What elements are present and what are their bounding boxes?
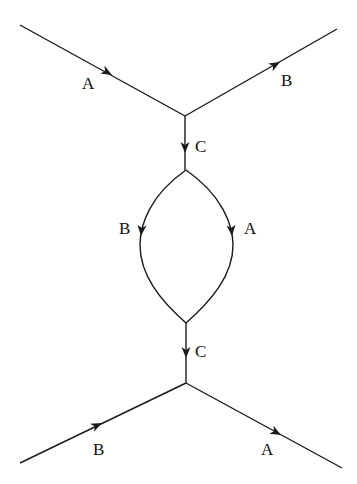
arrow-icon xyxy=(90,419,104,432)
label-top-out: B xyxy=(281,71,292,90)
arrow-icon xyxy=(100,66,114,79)
arrow-icon xyxy=(269,426,283,439)
label-bottom-in: B xyxy=(93,440,104,459)
edge-loop-right-a xyxy=(186,170,233,323)
label-top-in: A xyxy=(82,74,95,93)
label-loop-right: A xyxy=(244,219,257,238)
edge-top-b xyxy=(185,29,337,116)
arrow-icon xyxy=(137,225,147,237)
label-top-mid: C xyxy=(195,137,206,156)
label-bottom-out: A xyxy=(261,440,274,459)
label-loop-left: B xyxy=(119,219,130,238)
edge-top-a xyxy=(20,25,185,116)
feynman-diagram: A B C B A C B A xyxy=(0,0,357,484)
label-bottom-mid: C xyxy=(195,342,206,361)
edge-loop-left-b xyxy=(140,170,186,323)
arrow-icon xyxy=(227,225,237,237)
arrow-icon xyxy=(268,58,282,71)
